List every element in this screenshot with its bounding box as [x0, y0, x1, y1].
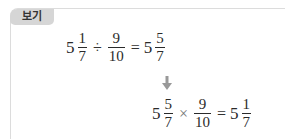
down-arrow-icon: [162, 76, 172, 90]
equation-division: 5 1 7 ÷ 9 10 = 5 5 7: [66, 31, 167, 64]
fraction: 9 10: [194, 97, 211, 130]
example-label: 보기: [10, 9, 54, 25]
numerator: 9: [198, 97, 208, 112]
multiply-operator: ×: [179, 105, 188, 123]
whole-number: 5: [66, 38, 75, 58]
equation-multiplication: 5 5 7 × 9 10 = 5 1 7: [152, 97, 253, 130]
fraction: 1 7: [78, 31, 88, 64]
denominator: 7: [78, 49, 88, 64]
numerator: 1: [242, 97, 252, 112]
numerator: 5: [155, 31, 165, 46]
equals-operator: =: [217, 105, 226, 123]
fraction: 1 7: [242, 97, 252, 130]
numerator: 1: [78, 31, 88, 46]
fraction: 5 7: [155, 31, 165, 64]
denominator: 7: [164, 115, 174, 130]
denominator: 10: [194, 115, 211, 130]
denominator: 7: [155, 49, 165, 64]
fraction: 5 7: [164, 97, 174, 130]
denominator: 7: [242, 115, 252, 130]
fraction: 9 10: [108, 31, 125, 64]
whole-number: 5: [152, 104, 161, 124]
denominator: 10: [108, 49, 125, 64]
numerator: 9: [112, 31, 122, 46]
whole-number: 5: [144, 38, 153, 58]
equals-operator: =: [131, 39, 140, 57]
numerator: 5: [164, 97, 174, 112]
divide-operator: ÷: [93, 39, 102, 57]
whole-number: 5: [230, 104, 239, 124]
